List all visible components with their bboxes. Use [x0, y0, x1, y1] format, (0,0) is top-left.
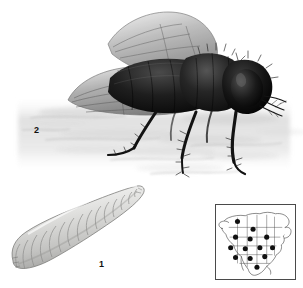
fly-larva-body: [12, 186, 144, 269]
map-dot: [233, 235, 238, 240]
map-dot: [243, 246, 248, 251]
map-dot: [264, 235, 269, 240]
figure-label-2: 2: [34, 126, 39, 135]
map-dot: [257, 245, 262, 250]
distribution-map-svg: [216, 205, 295, 279]
map-dot: [235, 219, 240, 224]
illustration-plate: 2 1: [0, 0, 303, 288]
map-dot: [248, 237, 253, 242]
figure-label-1: 1: [99, 260, 104, 269]
north-america-distribution-map: [215, 204, 296, 280]
map-dot: [270, 245, 275, 250]
map-dot: [228, 245, 233, 250]
map-dot: [254, 265, 259, 270]
map-dot: [248, 256, 253, 261]
map-dot: [262, 254, 267, 259]
map-dot: [233, 255, 238, 260]
map-dot: [251, 227, 256, 232]
